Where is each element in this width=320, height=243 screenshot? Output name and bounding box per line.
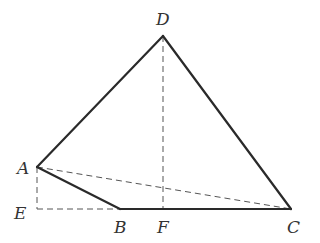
dashed-lines (37, 36, 291, 209)
label-c: C (287, 217, 300, 237)
segment-ac (37, 167, 291, 209)
label-f: F (156, 217, 170, 237)
label-e: E (13, 203, 27, 223)
geometry-diagram: A B C D E F (0, 0, 320, 243)
segment-dc (163, 36, 291, 209)
segment-ad (37, 36, 163, 167)
label-b: B (113, 217, 127, 237)
segment-ab (37, 167, 120, 209)
solid-lines (37, 36, 291, 209)
label-a: A (15, 158, 29, 178)
label-d: D (155, 9, 170, 29)
